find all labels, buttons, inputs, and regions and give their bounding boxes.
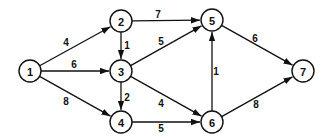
edge-weight-label: 5 xyxy=(158,36,164,47)
node-label: 4 xyxy=(118,117,125,129)
node-2: 2 xyxy=(110,10,132,32)
edge-weight-label: 8 xyxy=(253,99,259,110)
node-6: 6 xyxy=(201,111,223,133)
edge-weight-label: 2 xyxy=(124,92,130,103)
edge-5-7 xyxy=(222,25,293,65)
edge-weight-label: 6 xyxy=(252,33,258,44)
node-label: 3 xyxy=(118,66,124,78)
edge-weight-label: 6 xyxy=(71,59,77,70)
edge-3-5 xyxy=(131,26,202,66)
node-5: 5 xyxy=(201,9,223,31)
node-label: 5 xyxy=(209,15,215,27)
edge-3-6 xyxy=(131,76,202,116)
node-7: 7 xyxy=(292,60,314,82)
node-label: 2 xyxy=(118,16,124,28)
node-label: 1 xyxy=(27,66,33,78)
node-label: 7 xyxy=(300,66,306,78)
network-graph: 468172545168 1234567 xyxy=(0,0,327,139)
edge-weight-label: 8 xyxy=(63,96,69,107)
edge-weight-label: 5 xyxy=(158,123,164,134)
node-1: 1 xyxy=(19,60,41,82)
edge-1-4 xyxy=(40,76,111,116)
edge-weight-label: 7 xyxy=(155,9,161,20)
edge-weight-label: 4 xyxy=(63,37,69,48)
node-4: 4 xyxy=(110,111,132,133)
node-label: 6 xyxy=(209,117,215,129)
edge-weight-label: 1 xyxy=(213,66,219,77)
edge-6-7 xyxy=(222,77,293,117)
edge-weight-label: 1 xyxy=(124,40,130,51)
edge-2-5 xyxy=(132,20,200,21)
node-3: 3 xyxy=(110,60,132,82)
edge-weight-label: 4 xyxy=(158,98,164,109)
